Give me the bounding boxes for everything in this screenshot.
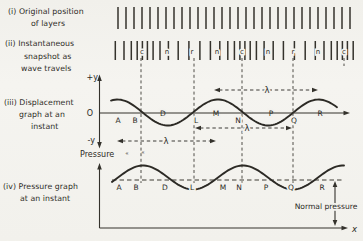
plus-y-label: +y [87,73,99,82]
wavelength-arrowhead-right [286,126,292,131]
lambda-label: λ [244,123,249,133]
pressure-point-R: R [319,183,324,192]
minus-y-arrowhead [97,142,102,149]
compression-rarefaction-markers: cnrncnrnc [140,48,346,56]
pressure-point-D: D [162,183,168,192]
marker-n: n [165,48,169,56]
displacement-point-N: N [235,116,241,125]
displacement-graph: DMPRABLNQλλλ [111,85,337,146]
pressure-graph: ABDLMNPQR [112,166,344,227]
normal-pressure-arrowhead-top [333,181,338,187]
marker-n: n [316,48,320,56]
marker-c: c [140,48,144,56]
phase-guide-lines [141,58,344,183]
pressure-axis-label: Pressure [80,150,114,159]
displacement-point-B: B [132,116,137,125]
pressure-point-B: B [133,183,138,192]
wavelength-arrowhead-left [195,126,201,131]
pressure-point-N: N [236,183,242,192]
marker-n: n [215,48,219,56]
normal-pressure-label: Normal pressure [295,202,358,211]
bottom-x-axis-arrowhead [342,226,349,231]
marker-n: n [266,48,270,56]
pressure-point-Q: Q [288,183,294,192]
marker-r: r [191,48,194,56]
minus-y-label: -y [88,136,96,145]
x-axis-label: x [351,224,358,234]
lambda-label: λ [264,85,269,95]
displacement-x-axis-arrowhead [344,111,351,116]
lambda-label: λ [163,136,168,146]
marker-c: c [342,48,346,56]
stray-mark: « [141,149,144,155]
pressure-point-L: L [190,183,195,192]
marker-c: c [240,48,244,56]
stray-mark: « [125,150,128,156]
wavelength-arrowhead-right [312,88,318,93]
wavelength-arrowhead-left [214,88,220,93]
pressure-point-A: A [116,183,122,192]
pressure-curve [112,166,344,190]
wave-diagram-svg: DMPRABLNQλλλ ABDLMNPQR cnrncnrnc +y O -y… [0,0,363,241]
origin-label: O [87,109,93,118]
displacement-point-L: L [194,116,199,125]
pressure-point-M: M [220,183,226,192]
longitudinal-wave-figure: (i) Original position of layers (ii) Ins… [0,0,363,241]
normal-pressure-arrowhead-bottom [333,220,338,226]
wavelength-arrowhead-right [210,139,216,144]
pressure-axis-arrowhead [97,163,102,170]
wavelength-arrowhead-left [117,139,123,144]
displacement-point-Q: Q [291,116,297,125]
displacement-point-A: A [115,116,121,125]
marker-r: r [292,48,295,56]
pressure-point-P: P [264,183,269,192]
original-layer-ticks [118,7,350,29]
